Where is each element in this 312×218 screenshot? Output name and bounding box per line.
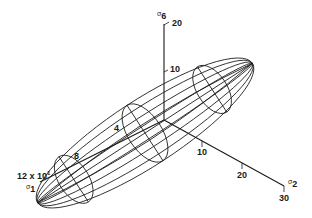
sigma2-label: σ2 — [288, 180, 297, 189]
sigma2-axis — [164, 120, 284, 186]
stress-ellipsoid-diagram — [0, 0, 312, 218]
sigma1-label: σ1 — [26, 185, 35, 194]
sigma2-tick-10: 10 — [197, 148, 207, 157]
sigma6-label: σ6 — [157, 12, 166, 21]
sigma1-axis — [40, 120, 164, 182]
sigma1-tick-12: 12 x 101 — [17, 172, 50, 181]
sigma2-tick-30: 30 — [279, 194, 289, 203]
ellipsoid — [20, 36, 271, 218]
sigma1-tick-8: 8 — [74, 152, 79, 161]
sigma6-tick-20: 20 — [172, 19, 182, 28]
sigma6-tick-10: 10 — [170, 65, 180, 74]
sigma1-tick-4: 4 — [114, 124, 119, 133]
sigma2-tick-20: 20 — [237, 171, 247, 180]
